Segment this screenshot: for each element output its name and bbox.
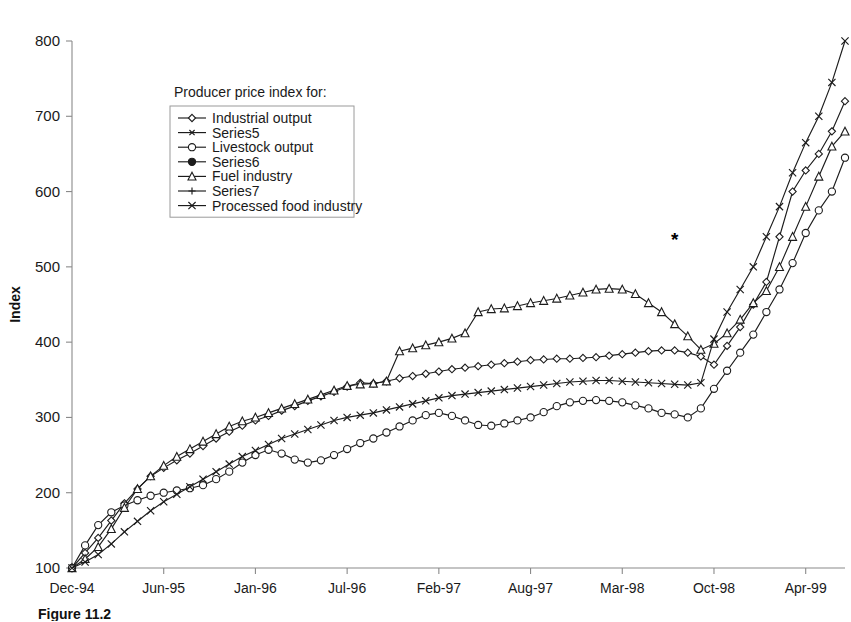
x-tick-label: Dec-94 (49, 580, 94, 596)
legend-item-label: Livestock output (212, 139, 313, 155)
legend-item-label: Series7 (212, 183, 260, 199)
x-tick-label: Apr-99 (785, 580, 827, 596)
y-tick-label: 500 (35, 258, 60, 275)
legend-item-label: Fuel industry (212, 168, 292, 184)
y-tick-label: 200 (35, 484, 60, 501)
legend-item-label: Processed food industry (212, 198, 362, 214)
legend-item-label: Series5 (212, 125, 260, 141)
y-tick-label: 800 (35, 32, 60, 49)
legend-title: Producer price index for: (174, 84, 327, 100)
legend-item-label: Series6 (212, 154, 260, 170)
y-axis-title: Index (7, 286, 23, 323)
figure-caption: Figure 11.2 (38, 606, 111, 621)
x-tick-label: Jan-96 (234, 580, 277, 596)
x-tick-label: Feb-97 (417, 580, 462, 596)
legend-item-label: Industrial output (212, 110, 312, 126)
x-tick-label: Aug-97 (508, 580, 553, 596)
chart-container: 100200300400500600700800Dec-94Jun-95Jan-… (0, 0, 851, 622)
asterisk-annotation: * (671, 229, 679, 250)
y-tick-label: 700 (35, 107, 60, 124)
y-tick-label: 300 (35, 408, 60, 425)
y-tick-label: 400 (35, 333, 60, 350)
x-tick-label: Oct-98 (693, 580, 735, 596)
y-tick-label: 100 (35, 559, 60, 576)
chart-legend: Producer price index for:Industrial outp… (170, 84, 362, 217)
x-tick-label: Jun-95 (142, 580, 185, 596)
axes: 100200300400500600700800Dec-94Jun-95Jan-… (7, 32, 845, 596)
producer-price-index-line-chart: 100200300400500600700800Dec-94Jun-95Jan-… (0, 0, 851, 600)
x-tick-label: Jul-96 (328, 580, 366, 596)
x-tick-label: Mar-98 (600, 580, 645, 596)
y-tick-label: 600 (35, 183, 60, 200)
